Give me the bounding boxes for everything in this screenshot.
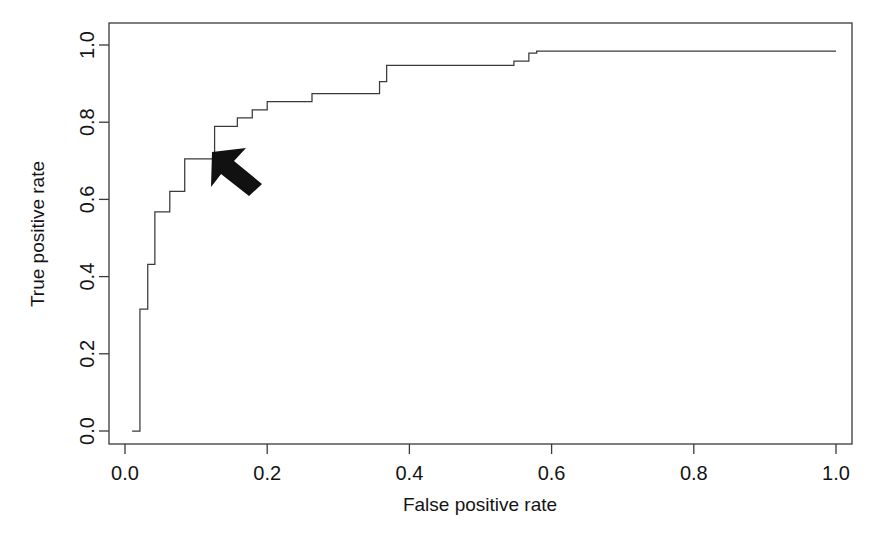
y-tick-label: 0.6 — [76, 185, 98, 213]
roc-curve-line — [132, 51, 836, 431]
x-tick-label: 0.2 — [253, 462, 281, 484]
y-tick-label: 0.4 — [76, 263, 98, 291]
y-axis-ticks: 0.00.20.40.60.81.0 — [76, 31, 109, 445]
y-axis-title: True positive rate — [27, 161, 48, 307]
x-tick-label: 1.0 — [822, 462, 850, 484]
x-tick-label: 0.8 — [680, 462, 708, 484]
x-tick-label: 0.0 — [111, 462, 139, 484]
x-axis-title: False positive rate — [403, 494, 557, 515]
roc-plot-svg: 0.00.20.40.60.81.0 0.00.20.40.60.81.0 Fa… — [0, 0, 890, 538]
x-axis-ticks: 0.00.20.40.60.81.0 — [111, 444, 850, 484]
roc-curve-figure: 0.00.20.40.60.81.0 0.00.20.40.60.81.0 Fa… — [0, 0, 890, 538]
x-tick-label: 0.4 — [395, 462, 423, 484]
y-tick-label: 1.0 — [76, 31, 98, 59]
plot-frame-box — [109, 23, 852, 444]
x-tick-label: 0.6 — [538, 462, 566, 484]
y-tick-label: 0.0 — [76, 417, 98, 445]
mouse-pointer-arrow-icon — [211, 148, 262, 196]
y-tick-label: 0.8 — [76, 108, 98, 136]
y-tick-label: 0.2 — [76, 340, 98, 368]
